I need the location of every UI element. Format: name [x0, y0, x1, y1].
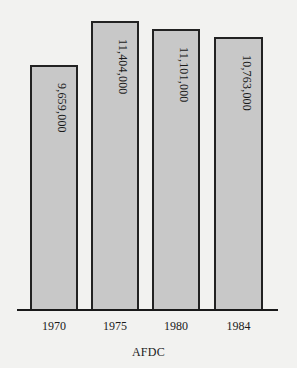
bar-value-label: 11,101,000 [176, 47, 191, 103]
bar-value-label: 10,763,000 [238, 55, 253, 111]
bar-1984: 10,763,000 [214, 37, 263, 310]
bar-value-label: 11,404,000 [115, 39, 130, 95]
bar-1980: 11,101,000 [152, 29, 200, 310]
x-tick-label-1984: 1984 [214, 319, 264, 334]
bar-value-label: 9,659,000 [54, 83, 69, 133]
x-tick-label-1975: 1975 [90, 319, 140, 334]
x-tick-label-1970: 1970 [29, 319, 79, 334]
bar-1970: 9,659,000 [30, 65, 78, 310]
bar-1975: 11,404,000 [91, 21, 139, 310]
x-axis-title: AFDC [0, 345, 297, 360]
x-axis-line [17, 309, 278, 311]
x-tick-label-1980: 1980 [151, 319, 201, 334]
bar-chart: 9,659,00011,404,00011,101,00010,763,000 … [0, 0, 297, 368]
